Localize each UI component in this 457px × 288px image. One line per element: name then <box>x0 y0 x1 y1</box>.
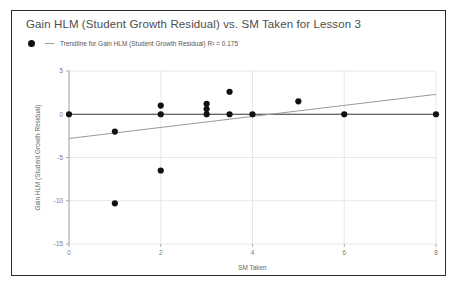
x-tick-label: 8 <box>434 249 438 256</box>
data-point <box>295 98 301 104</box>
data-point <box>226 111 232 117</box>
x-tick-label: 2 <box>159 249 163 256</box>
x-axis-label: SM Taken <box>238 264 267 271</box>
x-tick-label: 6 <box>342 249 346 256</box>
y-axis-ticks: 50-5-10-15 <box>54 67 69 247</box>
data-point <box>204 111 210 117</box>
data-point <box>341 111 347 117</box>
x-axis-ticks: 02468 <box>67 244 438 256</box>
data-point <box>226 89 232 95</box>
data-point <box>158 167 164 173</box>
data-point <box>112 128 118 134</box>
x-tick-label: 0 <box>67 249 71 256</box>
x-tick-label: 4 <box>251 249 255 256</box>
data-point <box>112 200 118 206</box>
data-point <box>433 111 439 117</box>
y-tick-label: 5 <box>59 67 63 74</box>
chart-card: Gain HLM (Student Growth Residual) vs. S… <box>11 10 446 276</box>
plot-gridlines <box>69 71 436 244</box>
data-point <box>158 103 164 109</box>
y-tick-label: -5 <box>57 154 63 161</box>
data-point <box>249 111 255 117</box>
data-point <box>66 111 72 117</box>
y-tick-label: -15 <box>54 240 64 247</box>
scatter-plot: 50-5-10-15 02468 SM Taken Gain HLM (Stud… <box>12 11 447 277</box>
y-tick-label: -10 <box>54 197 64 204</box>
data-point <box>158 111 164 117</box>
y-axis-label: Gain HLM (Student Growth Residual) <box>34 105 42 211</box>
y-tick-label: 0 <box>59 111 63 118</box>
